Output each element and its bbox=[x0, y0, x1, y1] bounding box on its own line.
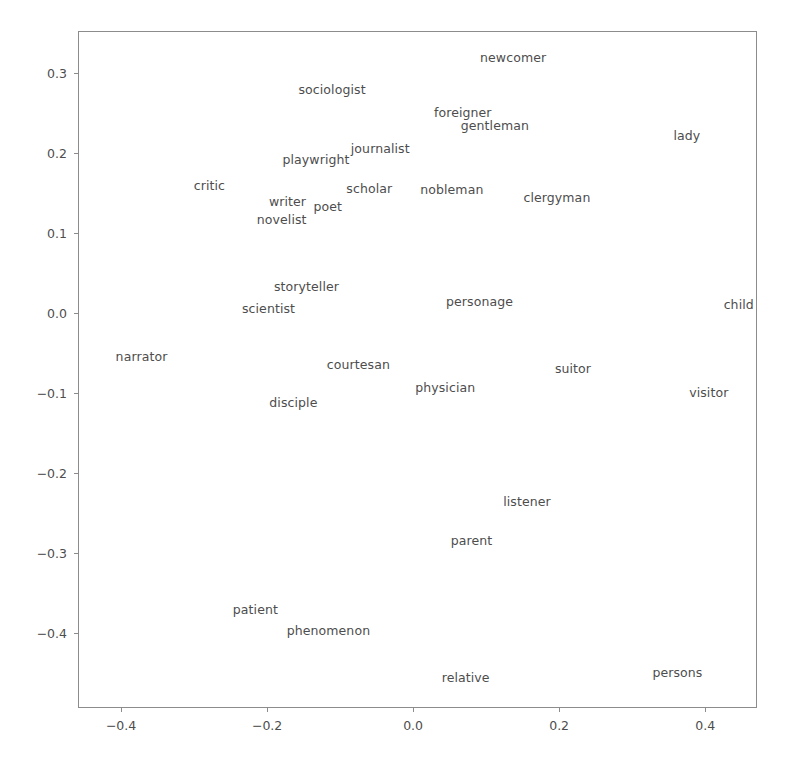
word-point-label: disciple bbox=[269, 396, 317, 409]
word-point-label: suitor bbox=[555, 363, 591, 376]
x-axis-tick-mark bbox=[705, 708, 706, 712]
word-point-label: relative bbox=[442, 671, 490, 684]
word-point-label: journalist bbox=[351, 143, 410, 156]
y-axis-tick-label: −0.2 bbox=[37, 466, 67, 481]
word-point-label: poet bbox=[313, 201, 342, 214]
word-point-label: nobleman bbox=[420, 184, 483, 197]
x-axis-tick-mark bbox=[267, 708, 268, 712]
word-point-label: parent bbox=[451, 535, 493, 548]
word-point-label: clergyman bbox=[523, 192, 590, 205]
y-axis-tick-label: −0.4 bbox=[37, 625, 67, 640]
word-point-label: persons bbox=[652, 667, 702, 680]
word-point-label: narrator bbox=[116, 351, 168, 364]
x-axis-tick-label: −0.2 bbox=[252, 718, 282, 733]
word-point-label: gentleman bbox=[461, 120, 529, 133]
x-axis-tick-mark bbox=[559, 708, 560, 712]
word-point-label: playwright bbox=[282, 154, 349, 167]
x-axis-tick-mark bbox=[121, 708, 122, 712]
word-point-label: novelist bbox=[257, 213, 307, 226]
word-point-label: personage bbox=[446, 296, 513, 309]
y-axis-tick-label: 0.0 bbox=[47, 306, 67, 321]
word-point-label: writer bbox=[269, 196, 306, 209]
word-point-label: storyteller bbox=[274, 281, 339, 294]
word-point-label: listener bbox=[503, 496, 551, 509]
y-axis-tick-label: 0.2 bbox=[47, 146, 67, 161]
y-axis-tick-label: −0.3 bbox=[37, 545, 67, 560]
word-point-label: sociologist bbox=[298, 84, 365, 97]
x-axis-tick-mark bbox=[413, 708, 414, 712]
x-axis-tick-label: 0.0 bbox=[403, 718, 423, 733]
word-point-label: critic bbox=[194, 180, 225, 193]
word-point-label: child bbox=[724, 299, 754, 312]
word-point-label: scholar bbox=[346, 183, 392, 196]
word-point-label: visitor bbox=[689, 387, 728, 400]
x-axis-tick-label: 0.2 bbox=[549, 718, 569, 733]
y-axis-tick-label: 0.3 bbox=[47, 66, 67, 81]
word-point-label: physician bbox=[415, 382, 475, 395]
word-point-label: newcomer bbox=[480, 52, 546, 65]
word-point-label: patient bbox=[233, 604, 278, 617]
scatter-plot-figure: −0.4−0.3−0.2−0.10.00.10.20.3 −0.4−0.20.0… bbox=[0, 0, 795, 769]
word-point-label: lady bbox=[673, 129, 700, 142]
x-axis-tick-label: −0.4 bbox=[106, 718, 136, 733]
plot-area: newcomersociologistforeignergentlemanlad… bbox=[78, 31, 757, 708]
y-axis-tick-label: −0.1 bbox=[37, 386, 67, 401]
word-point-label: courtesan bbox=[327, 359, 390, 372]
word-point-label: scientist bbox=[242, 303, 295, 316]
word-point-label: phenomenon bbox=[287, 625, 370, 638]
y-axis-tick-label: 0.1 bbox=[47, 226, 67, 241]
x-axis-tick-label: 0.4 bbox=[695, 718, 715, 733]
